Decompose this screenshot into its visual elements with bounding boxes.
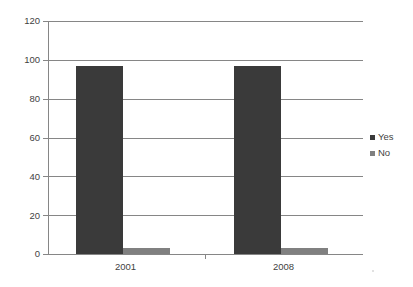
scan-artifact-speck <box>372 270 374 272</box>
y-axis-label-60: 60 <box>6 133 40 143</box>
bar-2008-yes[interactable] <box>234 66 281 254</box>
legend-swatch-no-icon <box>370 151 375 156</box>
legend: Yes No <box>370 130 413 162</box>
bar-2008-no[interactable] <box>281 248 328 254</box>
gridline-100 <box>48 60 363 61</box>
plot-area <box>48 21 363 254</box>
x-axis-tick-mid <box>205 255 206 259</box>
y-axis-label-120: 120 <box>6 16 40 26</box>
y-axis-label-100: 100 <box>6 55 40 65</box>
y-axis-label-40: 40 <box>6 172 40 182</box>
legend-label-no: No <box>378 148 390 158</box>
x-axis-label-2008: 2008 <box>229 261 338 272</box>
gridline-120 <box>48 21 363 22</box>
bar-chart: 120 100 80 60 40 20 0 2001 2008 <box>0 0 413 287</box>
bar-2001-no[interactable] <box>123 248 170 254</box>
y-axis-label-20: 20 <box>6 211 40 221</box>
y-axis-label-0: 0 <box>6 249 40 259</box>
legend-swatch-yes-icon <box>370 135 375 140</box>
x-axis-label-2001: 2001 <box>71 261 180 272</box>
legend-item-yes[interactable]: Yes <box>370 130 413 144</box>
bar-2001-yes[interactable] <box>76 66 123 254</box>
legend-label-yes: Yes <box>378 132 394 142</box>
legend-item-no[interactable]: No <box>370 146 413 160</box>
y-axis-label-80: 80 <box>6 94 40 104</box>
y-axis-labels: 120 100 80 60 40 20 0 <box>0 0 40 287</box>
